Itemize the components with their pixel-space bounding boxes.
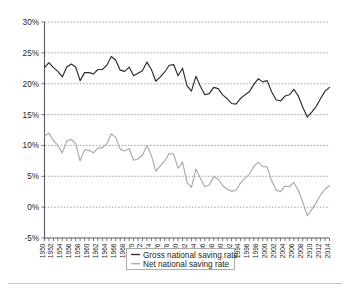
x-tick-label-1964: 1964 xyxy=(101,243,108,258)
x-tick-label-2010: 2010 xyxy=(306,243,313,258)
x-tick-label-2014: 2014 xyxy=(324,243,331,258)
x-tick-label-1960: 1960 xyxy=(83,243,90,258)
legend-label-net: Net national saving rate xyxy=(143,260,229,269)
chart-legend: Gross national saving rate Net national … xyxy=(127,249,239,270)
x-tick-label-2012: 2012 xyxy=(315,243,322,258)
x-tick-label-1954: 1954 xyxy=(56,243,63,258)
x-tick-label-1956: 1956 xyxy=(65,243,72,258)
gridline-group xyxy=(45,22,330,207)
x-tick-label-1968: 1968 xyxy=(119,243,126,258)
series-line-gross-national-saving-rate xyxy=(45,57,330,117)
y-tick-label-10%: 10% xyxy=(23,141,39,150)
x-tick-label-2006: 2006 xyxy=(288,243,295,258)
y-tick-label-25%: 25% xyxy=(23,49,39,58)
legend-label-gross: Gross national saving rate xyxy=(143,251,239,260)
x-tick-label-1958: 1958 xyxy=(74,243,81,258)
x-tick-label-2008: 2008 xyxy=(297,243,304,258)
x-tick-label-1962: 1962 xyxy=(92,243,99,258)
x-tick-label-2004: 2004 xyxy=(279,243,286,258)
x-tick-label-2000: 2000 xyxy=(261,243,268,258)
y-tick-label-5%: 5% xyxy=(27,172,39,181)
x-tick-label-1952: 1952 xyxy=(47,243,54,258)
y-tick-label--5%: -5% xyxy=(24,234,39,243)
y-tick-label-30%: 30% xyxy=(23,18,39,27)
x-tick-label-1996: 1996 xyxy=(243,243,250,258)
x-tick-label-1998: 1998 xyxy=(252,243,259,258)
y-tick-label-15%: 15% xyxy=(23,111,39,120)
chart-container: 30%25%20%15%10%5%0%-5% 19501952195419561… xyxy=(0,0,350,290)
x-tick-label-1950: 1950 xyxy=(39,243,46,258)
y-tick-label-0%: 0% xyxy=(27,203,39,212)
y-axis-label-group: 30%25%20%15%10%5%0%-5% xyxy=(23,18,39,243)
x-tick-label-1966: 1966 xyxy=(110,243,117,258)
y-tick-label-20%: 20% xyxy=(23,80,39,89)
x-tick-label-2002: 2002 xyxy=(270,243,277,258)
national-saving-rate-line-chart: 30%25%20%15%10%5%0%-5% 19501952195419561… xyxy=(0,0,350,290)
